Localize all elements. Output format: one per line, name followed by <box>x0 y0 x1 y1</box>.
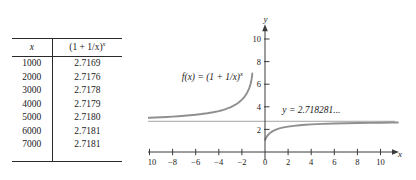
x-axis-tick-label: −8 <box>168 157 177 167</box>
table-header-row: x (1 + 1/x)x <box>12 39 122 57</box>
table-cell-fx: 2.7179 <box>52 98 122 112</box>
table-header-fx-exponent: x <box>103 40 106 47</box>
y-axis-tick-label: 8 <box>257 57 261 67</box>
asymptote-label: y = 2.718281... <box>281 105 340 115</box>
table-cell-fx: 2.7181 <box>52 125 122 139</box>
x-axis-tick-label: −4 <box>214 157 224 167</box>
table-divider-filler <box>12 152 122 162</box>
figure-root: x (1 + 1/x)x 1000 2.7169 2000 2.7176 300… <box>0 0 416 180</box>
x-axis-tick-label: −2 <box>237 157 246 167</box>
y-axis-tick-labels: 246810 <box>253 34 262 134</box>
table-cell-x: 5000 <box>12 111 52 125</box>
table-cell-fx: 2.7180 <box>52 111 122 125</box>
y-axis-arrow <box>262 24 268 31</box>
x-axis-tick-label: 8 <box>355 157 359 167</box>
x-axis-tick-label: 6 <box>332 157 336 167</box>
table-header-x: x <box>12 39 52 57</box>
table-row: 1000 2.7169 <box>12 57 122 71</box>
table-row: 4000 2.7179 <box>12 98 122 112</box>
table-cell-fx: 2.7181 <box>52 138 122 152</box>
table-cell-x: 7000 <box>12 138 52 152</box>
function-label: f(x) = (1 + 1/x)x <box>182 70 243 82</box>
y-axis-tick-label: 4 <box>257 102 262 112</box>
table-cell-fx: 2.7169 <box>52 57 122 71</box>
x-axis-tick-label: 10 <box>376 157 385 167</box>
table-header-fx-base: (1 + 1/x) <box>69 42 102 52</box>
y-axis-tick-label: 2 <box>257 125 261 135</box>
values-table: x (1 + 1/x)x 1000 2.7169 2000 2.7176 300… <box>12 38 122 162</box>
table-row: 5000 2.7180 <box>12 111 122 125</box>
x-axis-tick-labels: −10−8−6−4−20246810 <box>148 157 385 167</box>
table-cell-x: 3000 <box>12 84 52 98</box>
y-axis-label: y <box>263 14 268 24</box>
curve-right-branch <box>265 123 398 140</box>
table-row: 3000 2.7178 <box>12 84 122 98</box>
table-cell-x: 4000 <box>12 98 52 112</box>
table-cell-x: 1000 <box>12 57 52 71</box>
x-axis-label: x <box>397 149 402 159</box>
table-cell-fx: 2.7178 <box>52 84 122 98</box>
table-row: 2000 2.7176 <box>12 71 122 85</box>
table-header-fx: (1 + 1/x)x <box>52 39 122 57</box>
function-label-base: f(x) = (1 + 1/x) <box>182 72 240 83</box>
function-label-exponent: x <box>239 70 243 77</box>
table-row: 7000 2.7181 <box>12 138 122 152</box>
values-table-panel: x (1 + 1/x)x 1000 2.7169 2000 2.7176 300… <box>12 38 122 162</box>
table-cell-fx: 2.7176 <box>52 71 122 85</box>
x-axis-tick-label: −10 <box>148 157 156 167</box>
y-axis-tick-label: 6 <box>257 79 261 89</box>
function-plot: −10−8−6−4−20246810 246810 x y f(x) = (1 … <box>148 0 416 180</box>
table-cell-x: 2000 <box>12 71 52 85</box>
x-axis-tick-label: 2 <box>286 157 290 167</box>
table-bottom-rule <box>12 161 122 162</box>
graph-panel: −10−8−6−4−20246810 246810 x y f(x) = (1 … <box>148 0 416 180</box>
table-cell-x: 6000 <box>12 125 52 139</box>
x-axis-tick-label: −6 <box>191 157 200 167</box>
table-row: 6000 2.7181 <box>12 125 122 139</box>
y-axis-tick-label: 10 <box>253 34 262 44</box>
x-axis-tick-label: 0 <box>263 157 267 167</box>
x-axis-tick-label: 4 <box>309 157 314 167</box>
